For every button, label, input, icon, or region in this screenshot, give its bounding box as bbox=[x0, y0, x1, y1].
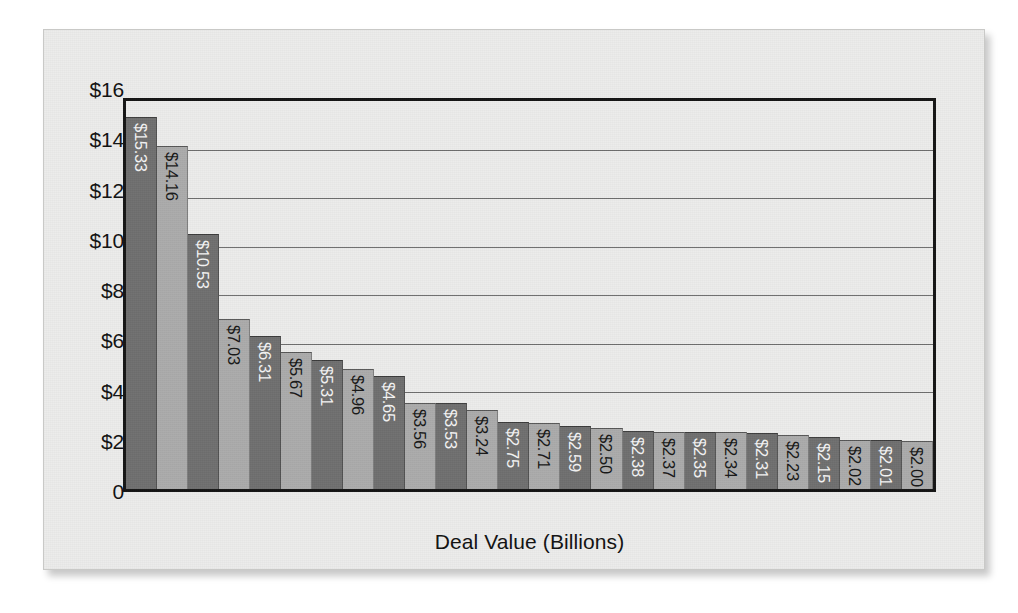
bar[interactable]: $2.50 bbox=[591, 428, 622, 489]
bar[interactable]: $2.15 bbox=[809, 437, 840, 489]
bar[interactable]: $3.53 bbox=[436, 403, 467, 489]
bar-value-label: $2.01 bbox=[878, 446, 895, 486]
y-axis-tick-label: $16 bbox=[58, 79, 124, 100]
chart-card: $16$14$12$10$8$6$4$20 $15.33$14.16$10.53… bbox=[43, 29, 985, 570]
bar-value-label: $4.65 bbox=[381, 382, 398, 422]
bar[interactable]: $2.31 bbox=[747, 433, 778, 489]
bar[interactable]: $2.37 bbox=[654, 432, 685, 489]
bar[interactable]: $15.33 bbox=[126, 117, 157, 489]
bar-value-label: $7.03 bbox=[226, 325, 243, 365]
bar-value-label: $2.00 bbox=[909, 447, 926, 487]
bar[interactable]: $14.16 bbox=[157, 146, 188, 489]
bar[interactable]: $2.23 bbox=[778, 435, 809, 489]
bar-series: $15.33$14.16$10.53$7.03$6.31$5.67$5.31$4… bbox=[126, 101, 933, 489]
bar[interactable]: $2.00 bbox=[902, 441, 933, 490]
bar-value-label: $2.34 bbox=[722, 438, 739, 478]
bar[interactable]: $2.35 bbox=[685, 432, 716, 489]
bar-value-label: $3.56 bbox=[412, 409, 429, 449]
bar-value-label: $2.50 bbox=[598, 434, 615, 474]
bar-value-label: $14.16 bbox=[164, 152, 181, 201]
bar-value-label: $2.38 bbox=[629, 437, 646, 477]
bar-value-label: $4.96 bbox=[350, 375, 367, 415]
bar-value-label: $2.71 bbox=[536, 429, 553, 469]
plot-area: $15.33$14.16$10.53$7.03$6.31$5.67$5.31$4… bbox=[123, 98, 936, 492]
bar-value-label: $2.75 bbox=[505, 428, 522, 468]
bar[interactable]: $2.71 bbox=[529, 423, 560, 489]
bar-value-label: $5.67 bbox=[288, 358, 305, 398]
bar[interactable]: $4.65 bbox=[374, 376, 405, 489]
y-axis-tick-label: $14 bbox=[58, 129, 124, 150]
bar-value-label: $2.02 bbox=[846, 446, 863, 486]
y-axis-tick-label: $6 bbox=[58, 330, 124, 351]
x-axis-title: Deal Value (Billions) bbox=[123, 530, 936, 554]
bar[interactable]: $3.24 bbox=[467, 410, 498, 489]
bar[interactable]: $5.67 bbox=[281, 352, 312, 489]
bar-value-label: $15.33 bbox=[133, 123, 150, 172]
y-axis-tick-label: 0 bbox=[58, 481, 124, 502]
bar-value-label: $2.15 bbox=[815, 443, 832, 483]
bar[interactable]: $2.01 bbox=[871, 440, 902, 489]
bar-value-label: $3.24 bbox=[474, 416, 491, 456]
y-axis-tick-label: $10 bbox=[58, 229, 124, 250]
y-axis: $16$14$12$10$8$6$4$20 bbox=[58, 89, 124, 491]
bar[interactable]: $4.96 bbox=[343, 369, 374, 489]
bar[interactable]: $2.59 bbox=[560, 426, 591, 489]
y-axis-tick-label: $8 bbox=[58, 280, 124, 301]
bar[interactable]: $5.31 bbox=[312, 360, 343, 489]
bar[interactable]: $6.31 bbox=[250, 336, 281, 489]
bar-value-label: $2.37 bbox=[660, 438, 677, 478]
y-axis-tick-label: $4 bbox=[58, 380, 124, 401]
bar-value-label: $2.23 bbox=[784, 441, 801, 481]
bar-value-label: $6.31 bbox=[257, 342, 274, 382]
bar-value-label: $5.31 bbox=[319, 366, 336, 406]
bar[interactable]: $2.38 bbox=[623, 431, 654, 489]
y-axis-tick-label: $12 bbox=[58, 179, 124, 200]
bar[interactable]: $2.34 bbox=[716, 432, 747, 489]
bar-value-label: $3.53 bbox=[443, 409, 460, 449]
bar-value-label: $10.53 bbox=[195, 240, 212, 289]
y-axis-tick-label: $2 bbox=[58, 430, 124, 451]
bar[interactable]: $3.56 bbox=[405, 403, 436, 489]
bar-value-label: $2.35 bbox=[691, 438, 708, 478]
bar-value-label: $2.59 bbox=[567, 432, 584, 472]
screenshot-root: $16$14$12$10$8$6$4$20 $15.33$14.16$10.53… bbox=[0, 0, 1018, 613]
bar[interactable]: $7.03 bbox=[219, 319, 250, 489]
bar-value-label: $2.31 bbox=[753, 439, 770, 479]
bar[interactable]: $10.53 bbox=[188, 234, 219, 489]
bar[interactable]: $2.75 bbox=[498, 422, 529, 489]
bar[interactable]: $2.02 bbox=[840, 440, 871, 489]
